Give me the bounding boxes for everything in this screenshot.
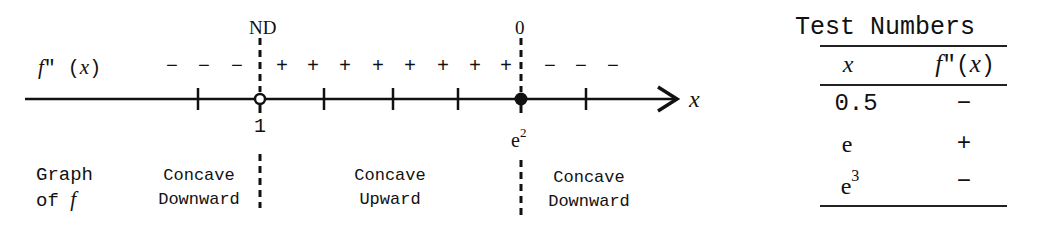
region-concave-downward-left: Concave Downward <box>158 164 240 212</box>
sign-minus: − <box>544 57 556 77</box>
table-row-x: e3 <box>841 166 860 200</box>
test-table-title: Test Numbers <box>795 14 975 42</box>
table-rule-header <box>820 84 1007 86</box>
critical-value-zero: 0 <box>515 18 525 38</box>
sign-minus: − <box>231 57 243 77</box>
region-concave-downward-right: Concave Downward <box>548 166 630 214</box>
table-header-fpp: f"(x) <box>935 50 994 80</box>
sign-plus: + <box>404 57 416 77</box>
axis-label-x: x <box>689 86 700 112</box>
table-row-x: e <box>842 130 853 158</box>
table-row-sign: − <box>957 168 971 196</box>
open-circle-icon <box>255 94 265 104</box>
table-header-x: x <box>843 50 854 78</box>
x-label-one: 1 <box>254 116 266 138</box>
sign-plus: + <box>469 57 481 77</box>
table-rule-bottom <box>820 205 1007 207</box>
sign-minus: − <box>575 57 587 77</box>
sign-plus: + <box>500 57 512 77</box>
sign-plus: + <box>437 57 449 77</box>
table-row-sign: + <box>957 130 971 158</box>
graph-row-label: Graph of f <box>36 163 93 213</box>
sign-plus: + <box>372 57 384 77</box>
table-row-x: 0.5 <box>834 90 877 118</box>
sign-plus: + <box>307 57 319 77</box>
second-derivative-label: f" (x) <box>38 56 101 80</box>
sign-plus: + <box>276 57 288 77</box>
sign-minus: − <box>166 57 178 77</box>
sign-minus: − <box>198 57 210 77</box>
critical-value-nd: ND <box>249 18 276 38</box>
sign-plus: + <box>339 57 351 77</box>
filled-dot-icon <box>515 93 528 106</box>
sign-minus: − <box>607 57 619 77</box>
table-row-sign: − <box>957 90 971 118</box>
x-label-e-squared: e2 <box>511 124 526 151</box>
region-concave-upward: Concave Upward <box>354 164 425 212</box>
table-rule-top <box>820 45 1007 47</box>
